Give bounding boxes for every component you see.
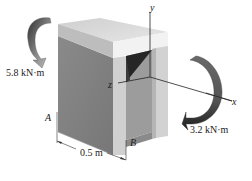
front-flange-left: [113, 56, 126, 155]
point-b-label: B: [130, 138, 136, 148]
beam-diagram-svg: [0, 0, 252, 181]
channel-beam: [58, 18, 168, 155]
dimension-label: 0.5 m: [80, 148, 103, 158]
moment-arrow-left-icon: [28, 18, 51, 68]
point-a-label: A: [45, 113, 51, 123]
y-axis-label: y: [150, 3, 154, 13]
z-axis-label: z: [108, 80, 112, 90]
moment-arrow-right-icon: [182, 56, 232, 130]
front-flange-right: [156, 46, 168, 138]
moment-right-label: 3.2 kN·m: [190, 125, 228, 135]
moment-left-label: 5.8 kN·m: [6, 68, 44, 78]
diagram-canvas: 5.8 kN·m 3.2 kN·m A B 0.5 m x y z: [0, 0, 252, 181]
x-axis-label: x: [232, 97, 236, 107]
